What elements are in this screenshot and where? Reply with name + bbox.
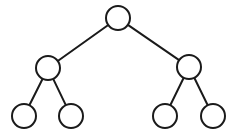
tree-node-left-right (59, 104, 83, 128)
edge-right-to-right-right (194, 78, 207, 105)
tree-node-root (106, 6, 130, 30)
tree-node-right-left (153, 104, 177, 128)
tree-node-right (177, 55, 201, 79)
edge-left-to-left-left (29, 79, 42, 106)
tree-node-left-left (12, 104, 36, 128)
binary-tree-diagram (0, 0, 236, 137)
edge-left-to-left-right (53, 79, 66, 105)
tree-node-left (36, 56, 60, 80)
edge-root-to-right (128, 25, 179, 60)
tree-node-right-right (201, 104, 225, 128)
edge-right-to-right-left (170, 78, 183, 105)
edge-root-to-left (58, 25, 108, 61)
tree-nodes (12, 6, 225, 128)
